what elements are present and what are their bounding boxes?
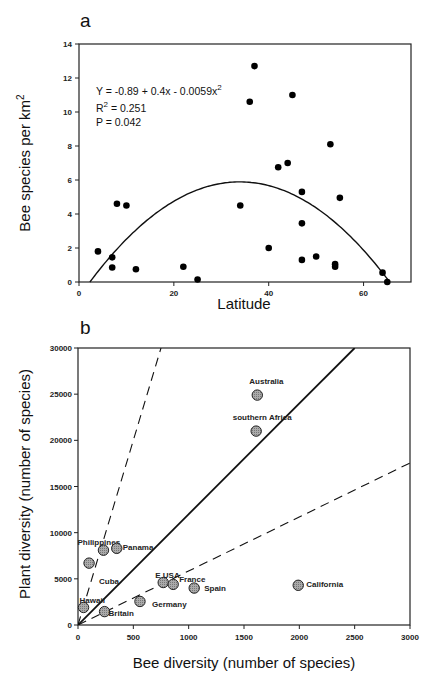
x-tick-label: 0	[76, 633, 81, 642]
y-tick-label: 4	[68, 210, 73, 219]
point-label: Panama	[123, 543, 154, 552]
y-tick-label: 12	[63, 74, 72, 83]
y-tick-label: 30000	[50, 344, 73, 353]
data-point	[246, 99, 253, 106]
y-tick-label: 5000	[54, 575, 72, 584]
x-tick-label: 1000	[180, 633, 198, 642]
x-tick-label: 3000	[401, 633, 419, 642]
y-tick-label: 25000	[50, 390, 73, 399]
y-tick-label: 14	[63, 40, 72, 49]
x-tick-label: 60	[359, 289, 368, 298]
data-point-germany	[135, 596, 145, 606]
panel-b-x-axis-label: Bee diversity (number of species)	[133, 654, 356, 671]
panel-b-points: Australiasouthern AfricaPhilippinesPanam…	[77, 377, 343, 618]
panel-b-y-axis-label: Plant diversity (number of species)	[16, 369, 33, 599]
data-point-spain	[189, 583, 199, 593]
panel-b-x-ticks: 050010001500200025003000	[76, 625, 420, 642]
y-tick-label: 8	[68, 142, 73, 151]
point-label: E USA	[155, 571, 180, 580]
y-tick-label: 2	[68, 244, 73, 253]
data-point	[313, 253, 320, 260]
x-tick-label: 20	[169, 289, 178, 298]
data-point	[327, 141, 334, 148]
data-point	[379, 269, 386, 276]
data-point	[114, 201, 121, 208]
data-point-cuba	[84, 558, 94, 568]
data-point	[289, 92, 296, 99]
data-point	[180, 263, 187, 270]
point-label: Cuba	[99, 577, 120, 586]
point-label: southern Africa	[233, 413, 292, 422]
point-label: Germany	[152, 600, 187, 609]
point-label: California	[306, 580, 343, 589]
y-tick-label: 6	[68, 176, 73, 185]
panel-b: b 050001000015000200002500030000 0500100…	[16, 317, 419, 671]
data-point	[237, 202, 244, 209]
data-point	[299, 257, 306, 264]
data-point	[332, 263, 339, 270]
data-point	[337, 195, 344, 202]
panel-b-reference-lines	[78, 348, 410, 625]
data-point	[384, 279, 391, 286]
point-label: Spain	[204, 584, 226, 593]
r-squared-label: R2 = 0.251	[96, 100, 146, 114]
x-tick-label: 0	[77, 289, 82, 298]
data-point	[275, 164, 282, 171]
data-point	[109, 264, 116, 271]
panel-a-y-ticks: 02468101214	[63, 40, 79, 287]
data-point-southern-africa	[251, 426, 261, 436]
point-label: Australia	[249, 377, 284, 386]
panel-a-label: a	[80, 10, 91, 31]
x-tick-label: 500	[127, 633, 141, 642]
panel-a-x-axis-label: Latitude	[217, 295, 270, 312]
x-tick-label: 2500	[346, 633, 364, 642]
data-point	[299, 189, 306, 196]
data-point-panama	[112, 543, 122, 553]
y-tick-label: 0	[68, 621, 73, 630]
data-point-california	[293, 580, 303, 590]
y-tick-label: 10000	[50, 529, 73, 538]
data-point-france	[168, 579, 178, 589]
data-point	[133, 266, 140, 273]
panel-b-frame	[78, 348, 410, 625]
data-point	[299, 220, 306, 227]
panel-b-label: b	[80, 317, 91, 338]
x-tick-label: 2000	[290, 633, 308, 642]
point-label: Hawaii	[80, 596, 105, 605]
panel-a: a 02468101214 0204060 Y = -0.89 + 0.4x -…	[15, 10, 411, 312]
data-point	[251, 63, 258, 70]
panel-a-y-axis-label: Bee species per km2	[15, 94, 33, 232]
point-label: Britain	[109, 609, 134, 618]
data-point	[265, 245, 272, 252]
y-tick-label: 10	[63, 108, 72, 117]
panel-a-frame	[79, 44, 411, 282]
p-value-label: P = 0.042	[96, 116, 141, 128]
x-tick-label: 1500	[235, 633, 253, 642]
data-point	[123, 202, 130, 209]
equation-label: Y = -0.89 + 0.4x - 0.0059x2	[96, 83, 222, 97]
panel-b-y-ticks: 050001000015000200002500030000	[50, 344, 78, 630]
y-tick-label: 15000	[50, 483, 73, 492]
data-point	[109, 254, 116, 261]
data-point	[95, 248, 102, 255]
figure: a 02468101214 0204060 Y = -0.89 + 0.4x -…	[0, 0, 438, 685]
y-tick-label: 20000	[50, 436, 73, 445]
data-point	[194, 276, 201, 283]
y-tick-label: 0	[68, 278, 73, 287]
data-point	[284, 160, 291, 167]
data-point-australia	[252, 390, 262, 400]
